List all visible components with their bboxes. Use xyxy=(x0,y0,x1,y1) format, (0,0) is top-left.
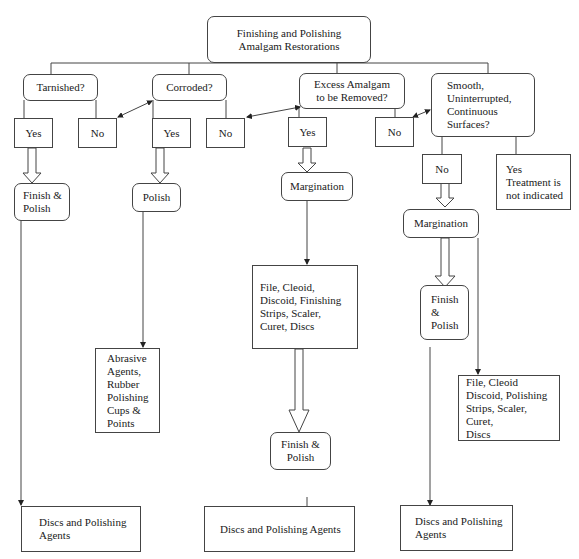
answer-label: Yes xyxy=(25,127,41,140)
answer-tarnished-no: No xyxy=(78,118,117,148)
instruments-label: File, Cleoid, Discoid, Finishing Strips,… xyxy=(260,281,341,333)
question-corroded: Corroded? xyxy=(152,74,227,101)
answer-label: No xyxy=(219,127,232,140)
step-label: Finish & Polish xyxy=(431,293,459,332)
step-excess-margination: Margination xyxy=(281,172,353,201)
step-label: Finish & Polish xyxy=(281,438,320,464)
step-smooth-margination: Margination xyxy=(403,209,479,238)
question-excess-amalgam: Excess Amalgam to be Removed? xyxy=(299,73,405,109)
answer-corroded-yes: Yes xyxy=(152,118,191,148)
step-smooth-finish-polish: Finish & Polish xyxy=(420,285,469,340)
root-node: Finishing and Polishing Amalgam Restorat… xyxy=(207,16,371,63)
answer-smooth-yes-not-indicated: Yes Treatment is not indicated xyxy=(496,154,571,210)
answer-tarnished-yes: Yes xyxy=(14,118,53,148)
answer-smooth-no: No xyxy=(422,154,462,184)
instruments-abrasive-agents: Abrasive Agents, Rubber Polishing Cups &… xyxy=(95,348,160,433)
instruments-smooth-tools: File, Cleoid Discoid, Polishing Strips, … xyxy=(458,375,560,441)
answer-corroded-no: No xyxy=(206,118,245,148)
instruments-excess-tools: File, Cleoid, Discoid, Finishing Strips,… xyxy=(252,265,358,349)
answer-label: Yes xyxy=(163,127,179,140)
question-corroded-label: Corroded? xyxy=(166,81,212,94)
answer-label: No xyxy=(91,127,104,140)
answer-label: No xyxy=(388,126,401,139)
step-corroded-polish: Polish xyxy=(132,183,181,212)
answer-excess-no: No xyxy=(375,117,414,147)
instruments-excess-discs: Discs and Polishing Agents xyxy=(204,506,355,552)
step-label: Margination xyxy=(414,217,468,230)
instruments-label: Discs and Polishing Agents xyxy=(220,523,341,536)
answer-label: Yes Treatment is not indicated xyxy=(506,163,563,202)
instruments-tarnished-discs: Discs and Polishing Agents xyxy=(21,506,141,552)
instruments-label: File, Cleoid Discoid, Polishing Strips, … xyxy=(466,376,554,441)
step-tarnished-finish-polish: Finish & Polish xyxy=(14,183,70,221)
question-tarnished: Tarnished? xyxy=(23,74,98,101)
question-excess-label: Excess Amalgam to be Removed? xyxy=(314,78,390,104)
step-label: Polish xyxy=(143,191,171,204)
step-label: Finish & Polish xyxy=(23,189,62,215)
step-label: Margination xyxy=(290,180,344,193)
answer-excess-yes: Yes xyxy=(288,117,327,147)
question-smooth-label: Smooth, Uninterrupted, Continuous Surfac… xyxy=(447,79,511,131)
instruments-label: Abrasive Agents, Rubber Polishing Cups &… xyxy=(107,352,149,430)
answer-label: Yes xyxy=(299,126,315,139)
answer-label: No xyxy=(435,163,448,176)
question-smooth-surfaces: Smooth, Uninterrupted, Continuous Surfac… xyxy=(431,73,535,137)
step-excess-finish-polish: Finish & Polish xyxy=(270,432,331,470)
question-tarnished-label: Tarnished? xyxy=(36,81,84,94)
root-label: Finishing and Polishing Amalgam Restorat… xyxy=(237,27,342,53)
instruments-smooth-discs: Discs and Polishing Agents xyxy=(400,505,513,551)
instruments-label: Discs and Polishing Agents xyxy=(39,516,126,542)
instruments-label: Discs and Polishing Agents xyxy=(415,515,502,541)
